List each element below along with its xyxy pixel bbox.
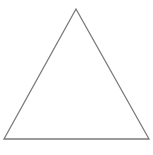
diagram-canvas <box>0 0 153 155</box>
triangle-outline <box>4 9 149 139</box>
triangle-figure <box>0 0 153 155</box>
